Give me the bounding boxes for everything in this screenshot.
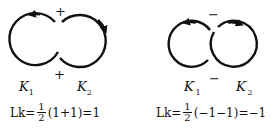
knot-k1-right <box>169 21 210 67</box>
crossing-sign-bottom-left: + <box>54 68 65 81</box>
label-k1-left: K1 <box>19 80 34 97</box>
label-k1-right: K′1 <box>184 80 201 97</box>
crossing-sign-bottom-right: − <box>209 72 220 85</box>
formula-left: Lk= 12 (1+1)=1 <box>10 102 100 123</box>
knot-k2-left <box>60 15 106 67</box>
formula-right: Lk= 12 (−1−1)=−1 <box>156 102 266 123</box>
knot-k2-right <box>211 21 257 67</box>
crossing-sign-top-left: + <box>55 5 66 18</box>
label-k2-left: K2 <box>77 80 92 97</box>
knot-k1-left <box>9 13 58 65</box>
crossing-sign-top-right: − <box>208 8 219 21</box>
label-k2-right: K′2 <box>236 80 253 97</box>
